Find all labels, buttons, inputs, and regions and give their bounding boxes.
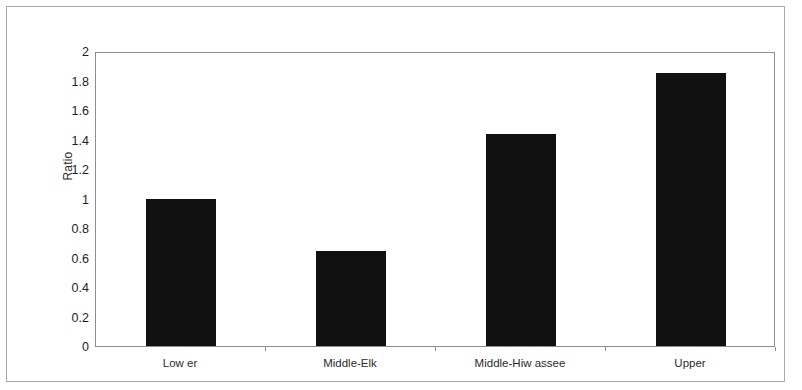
y-axis-tick-label: 1.8 <box>47 75 89 88</box>
bar <box>316 251 386 346</box>
y-axis-tick-label: 0.2 <box>47 311 89 324</box>
bar <box>486 134 556 346</box>
plot-area <box>95 52 775 347</box>
x-axis-tick-mark <box>605 347 606 351</box>
x-axis-tick-label: Middle-Hiw assee <box>475 357 566 369</box>
y-axis-tick-label: 1.4 <box>47 134 89 147</box>
y-axis-tick-label: 2 <box>47 46 89 59</box>
bar-group <box>96 53 774 346</box>
x-axis-tick-label: Upper <box>674 357 705 369</box>
y-axis-tick-label: 0.6 <box>47 252 89 265</box>
y-axis-tick-label: 0.4 <box>47 282 89 295</box>
bar <box>146 199 216 347</box>
x-axis-tick-mark <box>265 347 266 351</box>
y-axis-tick-label: 1 <box>47 193 89 206</box>
bar <box>656 73 726 346</box>
x-axis-tick-mark <box>775 347 776 351</box>
y-axis-tick-label: 0 <box>47 341 89 354</box>
y-axis-tick-label-group: 21.81.61.41.210.80.60.40.20 <box>47 52 89 347</box>
y-axis-tick-label: 1.6 <box>47 105 89 118</box>
y-axis-tick-label: 1.2 <box>47 164 89 177</box>
figure-frame: Ratio 21.81.61.41.210.80.60.40.20 Low er… <box>6 6 785 382</box>
x-axis-tick-label: Middle-Elk <box>323 357 377 369</box>
x-axis-tick-label: Low er <box>163 357 198 369</box>
x-axis-tick-mark <box>435 347 436 351</box>
x-axis-tick-label-group: Low erMiddle-ElkMiddle-Hiw asseeUpper <box>95 357 775 377</box>
y-axis-tick-label: 0.8 <box>47 223 89 236</box>
